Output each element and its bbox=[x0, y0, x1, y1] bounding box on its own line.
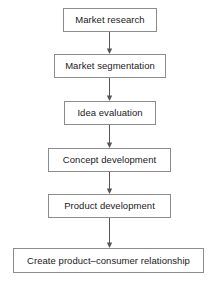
flow-node-market-segmentation: Market segmentation bbox=[54, 54, 166, 78]
flowchart-canvas: Market researchMarket segmentationIdea e… bbox=[0, 0, 216, 285]
flow-node-label: Concept development bbox=[63, 155, 156, 165]
flow-node-product-development: Product development bbox=[48, 194, 171, 218]
flow-arrow bbox=[104, 78, 115, 101]
flow-arrow bbox=[104, 125, 115, 148]
flow-node-idea-evaluation: Idea evaluation bbox=[64, 101, 156, 125]
flow-node-market-research: Market research bbox=[63, 8, 157, 32]
flow-node-label: Idea evaluation bbox=[77, 108, 142, 118]
flow-arrow bbox=[104, 32, 115, 54]
flow-arrow bbox=[104, 172, 115, 194]
flow-node-concept-development: Concept development bbox=[48, 148, 171, 172]
flow-node-create-product-consumer-relationship: Create product–consumer relationship bbox=[13, 248, 204, 273]
flow-node-label: Create product–consumer relationship bbox=[27, 256, 190, 266]
flow-node-label: Product development bbox=[64, 201, 155, 211]
flow-node-label: Market research bbox=[75, 15, 144, 25]
flow-arrow bbox=[104, 218, 115, 248]
flow-node-label: Market segmentation bbox=[65, 61, 155, 71]
